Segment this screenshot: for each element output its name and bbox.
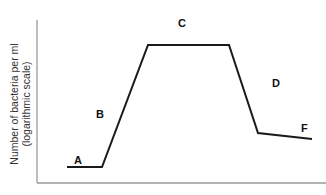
growth-curve — [67, 45, 312, 167]
phase-label-b: B — [96, 108, 104, 120]
svg-text:(logarithmic scale): (logarithmic scale) — [20, 61, 32, 146]
svg-text:Number of bacteria per ml: Number of bacteria per ml — [8, 43, 20, 164]
phase-label-a: A — [74, 154, 82, 166]
phase-label-c: C — [178, 17, 186, 29]
growth-curve-chart: Number of bacteria per ml (logarithmic s… — [0, 0, 326, 195]
phase-label-d: D — [272, 77, 280, 89]
phase-label-f: F — [301, 122, 308, 134]
y-axis-label: Number of bacteria per ml (logarithmic s… — [8, 43, 32, 164]
